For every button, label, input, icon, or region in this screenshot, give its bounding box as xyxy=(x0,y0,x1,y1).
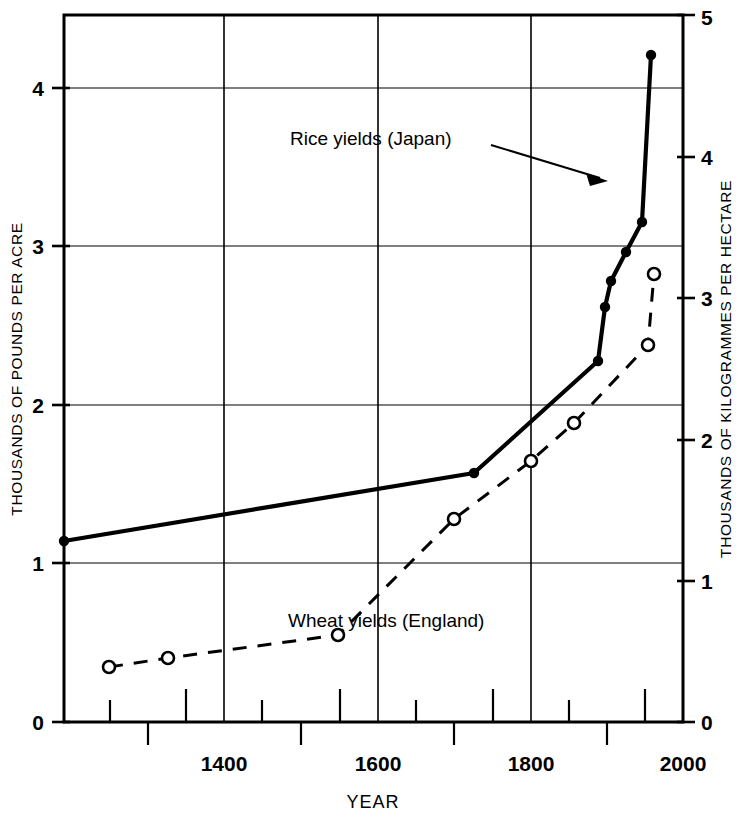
right-tick-4: 4 xyxy=(701,146,713,169)
chart-figure: Rice yields (Japan) Wheat yields (Englan… xyxy=(0,0,743,817)
rice-annotation-label: Rice yields (Japan) xyxy=(290,128,452,149)
x-tick-1400: 1400 xyxy=(201,752,248,775)
right-tick-1: 1 xyxy=(701,570,713,593)
right-axis-title: THOUSANDS OF KILOGRAMMES PER HECTARE xyxy=(717,180,734,558)
left-tick-3: 3 xyxy=(32,235,44,258)
left-tick-1: 1 xyxy=(32,552,44,575)
right-tick-3: 3 xyxy=(701,287,713,310)
left-tick-2: 2 xyxy=(32,394,44,417)
x-tick-1800: 1800 xyxy=(508,752,555,775)
right-tick-0: 0 xyxy=(701,711,713,734)
x-axis-title: YEAR xyxy=(346,792,399,812)
left-tick-4: 4 xyxy=(32,77,44,100)
right-tick-2: 2 xyxy=(701,429,713,452)
left-axis-title: THOUSANDS OF POUNDS PER ACRE xyxy=(8,222,25,515)
x-tick-1600: 1600 xyxy=(355,752,402,775)
x-tick-2000: 2000 xyxy=(660,752,707,775)
wheat-annotation-label: Wheat yields (England) xyxy=(288,610,484,631)
left-tick-0: 0 xyxy=(32,711,44,734)
chart-canvas: Rice yields (Japan) Wheat yields (Englan… xyxy=(0,0,743,817)
right-tick-5: 5 xyxy=(701,6,713,29)
chart-background xyxy=(0,0,743,817)
